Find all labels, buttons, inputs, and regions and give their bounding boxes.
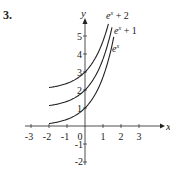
y-axis-label: y [80, 7, 86, 19]
x-tick-label: -3 [25, 131, 33, 142]
x-tick-label: -1 [61, 131, 69, 142]
problem-number: 3. [3, 8, 12, 22]
x-axis-label: x [165, 120, 170, 132]
x-tick-label: -2 [43, 131, 51, 142]
curve-label-ex-plus-1: ex + 1 [114, 25, 137, 36]
x-axis-arrow-icon [160, 124, 165, 129]
label-sup: x [115, 43, 119, 49]
y-tick-label: 4 [77, 49, 82, 60]
label-suffix: + 2 [113, 10, 129, 21]
y-tick-labels: -2 -1 1 2 3 4 5 [75, 31, 83, 167]
curve-label-ex: ex [112, 43, 119, 54]
x-tick-label: 1 [101, 131, 106, 142]
x-tick-label: 2 [119, 131, 124, 142]
x-tick-label: 3 [137, 131, 142, 142]
chart: 3. x y -3 -2 -1 0 1 2 3 -2 -1 1 2 3 4 5 [0, 0, 170, 170]
y-tick-label: -2 [75, 156, 83, 167]
curve-label-ex-plus-2: ex + 2 [106, 10, 129, 21]
label-suffix: + 1 [121, 25, 137, 36]
y-tick-label: -1 [75, 139, 83, 150]
x-tick-labels: -3 -2 -1 0 1 2 3 [25, 131, 142, 142]
y-tick-label: 5 [77, 31, 82, 42]
axes [25, 22, 160, 165]
